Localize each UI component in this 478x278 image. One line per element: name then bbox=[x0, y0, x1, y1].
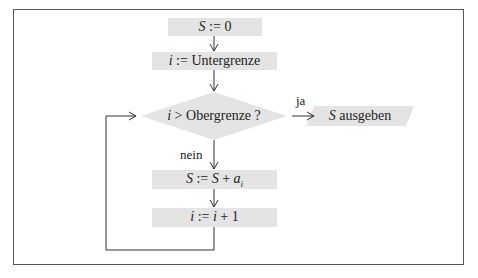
label-condition: i > Obergrenze ? bbox=[141, 107, 287, 125]
label-accumulate: S := S + ai bbox=[152, 170, 277, 193]
edge-label-no: nein bbox=[180, 146, 202, 164]
flowchart-shapes bbox=[0, 0, 478, 278]
label-increment: i := i + 1 bbox=[152, 208, 277, 226]
label-output: S ausgeben bbox=[306, 107, 414, 125]
label-init-s: S := 0 bbox=[168, 18, 262, 36]
label-init-i: i := Untergrenze bbox=[152, 52, 277, 70]
edge-label-yes: ja bbox=[296, 92, 305, 110]
